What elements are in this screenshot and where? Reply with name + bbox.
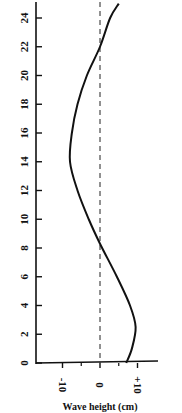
y-tick-label: 14 [18, 156, 30, 168]
y-tick-label: 20 [18, 70, 30, 82]
x-tick-label: +10 [132, 376, 144, 394]
y-tick-label: 6 [18, 274, 30, 280]
chart-canvas: 024681012141618202224-100+10 Wave height… [0, 0, 182, 413]
x-tick-label: 0 [94, 382, 106, 388]
axes [36, 2, 158, 368]
y-tick-label: 4 [18, 302, 30, 308]
x-axis-line [36, 361, 158, 363]
rotated-line-chart: 024681012141618202224-100+10 Wave height… [0, 0, 182, 413]
y-tick-label: 16 [18, 127, 30, 139]
x-axis-label: Wave height (cm) [63, 401, 138, 413]
data-series-line [70, 4, 136, 363]
y-tick-label: 12 [18, 185, 30, 197]
y-tick-label: 24 [18, 12, 30, 24]
y-tick-label: 18 [18, 98, 30, 110]
y-tick-label: 0 [18, 360, 30, 366]
y-tick-label: 22 [18, 41, 30, 53]
y-tick-label: 10 [18, 213, 30, 225]
y-tick-label: 2 [18, 331, 30, 337]
x-tick-label: -10 [57, 378, 69, 393]
y-tick-label: 8 [18, 245, 30, 251]
tick-labels: 024681012141618202224-100+10 [18, 12, 144, 394]
